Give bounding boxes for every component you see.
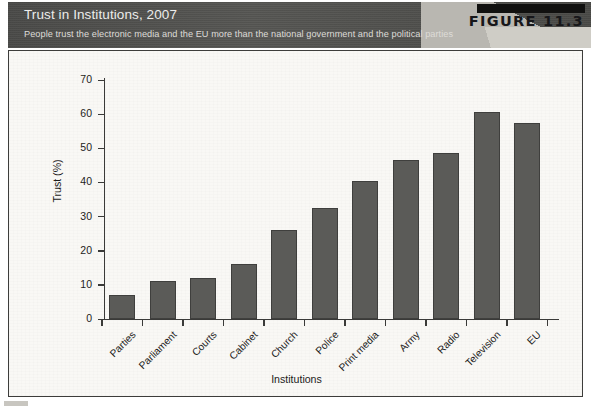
bar — [433, 153, 459, 319]
x-axis-tick — [344, 320, 345, 326]
x-axis-tick — [506, 320, 507, 326]
bar — [474, 112, 500, 319]
y-axis-tick — [98, 114, 104, 115]
figure-badge-bar — [477, 4, 585, 13]
x-axis-tick — [142, 320, 143, 326]
y-axis-tick-label: 50 — [52, 142, 92, 153]
x-axis-tick — [385, 320, 386, 326]
bar — [109, 295, 135, 319]
bar — [190, 278, 216, 319]
bar — [271, 230, 297, 319]
y-axis-line — [104, 78, 105, 320]
y-axis-tick-label: 10 — [52, 279, 92, 290]
y-axis-tick — [98, 182, 104, 183]
x-axis-tick — [304, 320, 305, 326]
bar — [150, 281, 176, 319]
y-axis-tick — [98, 250, 104, 251]
y-axis-tick-label: 40 — [52, 176, 92, 187]
x-axis-tick — [425, 320, 426, 326]
x-axis-tick — [223, 320, 224, 326]
y-axis-tick-label: 60 — [52, 108, 92, 119]
bar-chart-plot: Trust (%) Institutions 010203040506070Pa… — [9, 51, 583, 397]
bar — [514, 123, 540, 319]
y-axis-tick — [98, 80, 104, 81]
x-axis-tick — [466, 320, 467, 326]
y-axis-tick-label: 20 — [52, 245, 92, 256]
page-footer-mark — [4, 401, 28, 406]
figure-subtitle: People trust the electronic media and th… — [24, 29, 453, 39]
y-axis-tick — [98, 148, 104, 149]
y-axis-tick-label: 0 — [52, 313, 92, 324]
figure-number-label: FIGURE 11.3 — [469, 13, 584, 29]
bar — [312, 208, 338, 319]
chart-panel: Trust (%) Institutions 010203040506070Pa… — [8, 50, 583, 397]
y-axis-tick — [98, 284, 104, 285]
figure-container: FIGURE 11.3 Trust in Institutions, 2007 … — [0, 0, 591, 408]
y-axis-tick — [98, 216, 104, 217]
bar — [393, 160, 419, 319]
y-axis-tick-label: 30 — [52, 211, 92, 222]
figure-header: FIGURE 11.3 Trust in Institutions, 2007 … — [8, 2, 591, 48]
x-axis-tick — [182, 320, 183, 326]
x-axis-line — [104, 319, 559, 320]
bar — [231, 264, 257, 319]
bar — [352, 181, 378, 319]
x-axis-tick — [547, 320, 548, 326]
x-axis-tick — [263, 320, 264, 326]
x-axis-tick — [101, 320, 102, 326]
y-axis-tick-label: 70 — [52, 74, 92, 85]
figure-title: Trust in Institutions, 2007 — [24, 7, 177, 22]
